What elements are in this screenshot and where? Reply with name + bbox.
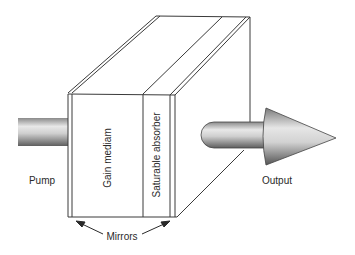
gain-medium-label: Gain mediam xyxy=(102,128,113,187)
laser-diagram: Pump Output Gain mediam Saturable absorb… xyxy=(0,0,355,255)
arrow-head-left-icon xyxy=(76,221,85,227)
saturable-absorber-label: Saturable absorber xyxy=(151,112,162,198)
mirrors-label: Mirrors xyxy=(106,231,137,242)
pump-label: Pump xyxy=(29,175,56,186)
pump-beam xyxy=(18,118,68,146)
arrow-head-right-icon xyxy=(161,221,170,227)
output-label: Output xyxy=(262,175,292,186)
